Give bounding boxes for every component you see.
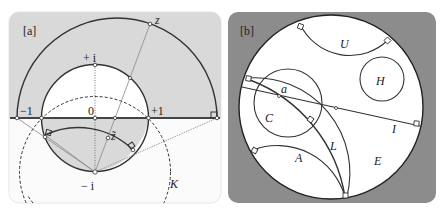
point-z (148, 22, 152, 26)
label-A: A (294, 151, 303, 165)
panel-b: [b] U H a C I L A E (228, 12, 436, 203)
label-minus-one: −1 (20, 104, 33, 118)
panel-a: [a] + i 0 −1 +1 z z̃ − i K (9, 12, 221, 214)
label-L: L (329, 139, 337, 153)
panel-b-tag: [b] (240, 24, 254, 38)
label-C: C (265, 111, 274, 125)
label-plus-one: +1 (151, 104, 164, 118)
label-z: z (154, 13, 160, 27)
panel-a-tag: [a] (23, 24, 36, 38)
right-angle-marker (414, 121, 419, 126)
label-K: K (169, 177, 179, 191)
point-z-tilde (106, 136, 110, 140)
label-U: U (340, 37, 350, 51)
point-right-end (215, 116, 219, 120)
label-plus-i: + i (83, 51, 97, 65)
point-minus-one (40, 116, 44, 120)
label-z-tilde: z̃ (110, 129, 116, 143)
figure: [a] + i 0 −1 +1 z z̃ − i K (0, 0, 443, 214)
point-left-end (15, 116, 19, 120)
label-minus-i: − i (81, 179, 95, 193)
point-minus-i (93, 170, 97, 174)
point-plus-one (147, 116, 151, 120)
label-H: H (375, 74, 386, 88)
label-E: E (373, 154, 382, 168)
right-angle-marker (343, 193, 348, 198)
label-a: a (281, 82, 287, 96)
point-center (335, 107, 338, 110)
right-angle-marker (297, 23, 303, 29)
label-zero: 0 (88, 104, 94, 118)
right-angle-marker (246, 76, 252, 82)
